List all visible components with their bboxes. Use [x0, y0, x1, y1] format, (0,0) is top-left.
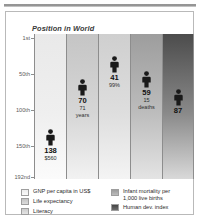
legend-label: Literacy: [33, 208, 53, 215]
legend-item-human-dev-index[interactable]: Human dev. index: [111, 204, 197, 212]
y-tick-label: 192nd: [14, 174, 30, 180]
y-tick-label: 50th: [19, 71, 30, 77]
y-tick-label: 150th: [16, 143, 30, 149]
legend-swatch-icon: [21, 198, 29, 205]
value-rank: 138: [35, 147, 66, 155]
value-detail-unit: deaths: [131, 104, 162, 110]
legend-column-left: GNP per capita in US$ Life expectancy Li…: [21, 188, 109, 218]
chart-title: Position in World: [32, 24, 94, 33]
column-life-expectancy[interactable]: 70 71 years: [66, 34, 98, 179]
legend-item-gnp[interactable]: GNP per capita in US$: [21, 188, 109, 196]
y-tick-label: 1st: [23, 35, 30, 41]
person-icon: [141, 71, 152, 88]
column-literacy[interactable]: 41 99%: [98, 34, 130, 179]
plot-area: 1st 50th 100th 150th 192nd 138: [34, 34, 194, 179]
person-icon: [109, 56, 120, 73]
column-infant-mortality[interactable]: 59 15 deaths: [130, 34, 162, 179]
value-rank: 59: [131, 89, 162, 97]
column-human-dev-index[interactable]: 87: [162, 34, 194, 179]
legend-swatch-icon: [111, 189, 119, 196]
value-rank: 70: [67, 97, 98, 105]
legend-swatch-icon: [21, 189, 29, 196]
legend-label: Life expectancy: [33, 198, 73, 205]
value-rank: 87: [163, 107, 193, 115]
marker-literacy: 41 99%: [99, 56, 130, 89]
legend-item-infant-mortality[interactable]: Infant mortality per 1,000 live births: [111, 188, 197, 201]
marker-gnp: 138 $560: [35, 129, 66, 162]
marker-human-dev-index: 87: [163, 89, 193, 115]
value-detail: 99%: [99, 82, 130, 88]
legend-item-life-expectancy[interactable]: Life expectancy: [21, 198, 109, 206]
marker-life-expectancy: 70 71 years: [67, 79, 98, 118]
value-detail: $560: [35, 155, 66, 161]
top-divider-rule: [4, 4, 196, 7]
legend-label: GNP per capita in US$: [33, 188, 90, 195]
legend-item-literacy[interactable]: Literacy: [21, 208, 109, 216]
person-icon: [173, 89, 184, 106]
figure-frame: Position in World 1st 50th 100th 150th 1…: [5, 11, 194, 215]
column-gnp[interactable]: 138 $560: [34, 34, 66, 179]
legend: GNP per capita in US$ Life expectancy Li…: [17, 188, 195, 220]
person-icon: [77, 79, 88, 96]
legend-label: Infant mortality per 1,000 live births: [123, 188, 170, 201]
legend-swatch-icon: [111, 204, 119, 211]
legend-label: Human dev. index: [123, 204, 168, 211]
legend-column-right: Infant mortality per 1,000 live births H…: [111, 188, 197, 213]
value-detail-unit: years: [67, 112, 98, 118]
legend-label-line2: 1,000 live births: [123, 195, 163, 201]
legend-swatch-icon: [21, 208, 29, 215]
legend-label-line1: Infant mortality per: [123, 188, 170, 194]
y-tick-label: 100th: [16, 107, 30, 113]
value-rank: 41: [99, 74, 130, 82]
marker-infant-mortality: 59 15 deaths: [131, 71, 162, 110]
person-icon: [45, 129, 56, 146]
